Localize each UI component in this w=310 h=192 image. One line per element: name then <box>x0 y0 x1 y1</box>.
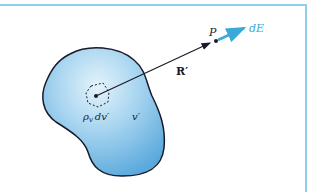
rho-subscript: v <box>89 116 93 124</box>
point-p <box>214 39 218 43</box>
de-vector <box>218 28 244 40</box>
volume-element-label: dv′ <box>95 111 110 122</box>
field-diagram: P dE R′ ρvdv′ 𝑣′ <box>0 0 310 192</box>
volume-label: 𝑣′ <box>132 111 141 122</box>
point-p-label: P <box>208 26 217 39</box>
de-label: dE <box>249 22 264 35</box>
r-prime-label: R′ <box>176 65 188 78</box>
